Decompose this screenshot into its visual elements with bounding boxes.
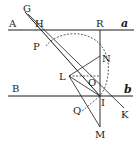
label-M: M [95,129,105,140]
label-L: L [59,71,66,82]
label-K: K [121,109,129,120]
label-A: A [8,18,17,29]
label-a: a [121,17,128,30]
label-b: b [124,83,132,96]
label-B: B [12,83,19,94]
label-Q: Q [73,105,81,116]
line-QI [82,96,100,111]
label-O: O [88,77,96,88]
label-G: G [23,3,31,14]
arc-PI [46,34,108,96]
label-R: R [96,18,104,29]
label-N: N [102,53,111,64]
figure-canvas: G A H R a P N L O B b I K Q M [0,0,139,145]
label-H: H [35,18,44,29]
geometry-figure: G A H R a P N L O B b I K Q M [0,0,139,145]
label-P: P [33,41,40,52]
label-I: I [101,97,105,108]
